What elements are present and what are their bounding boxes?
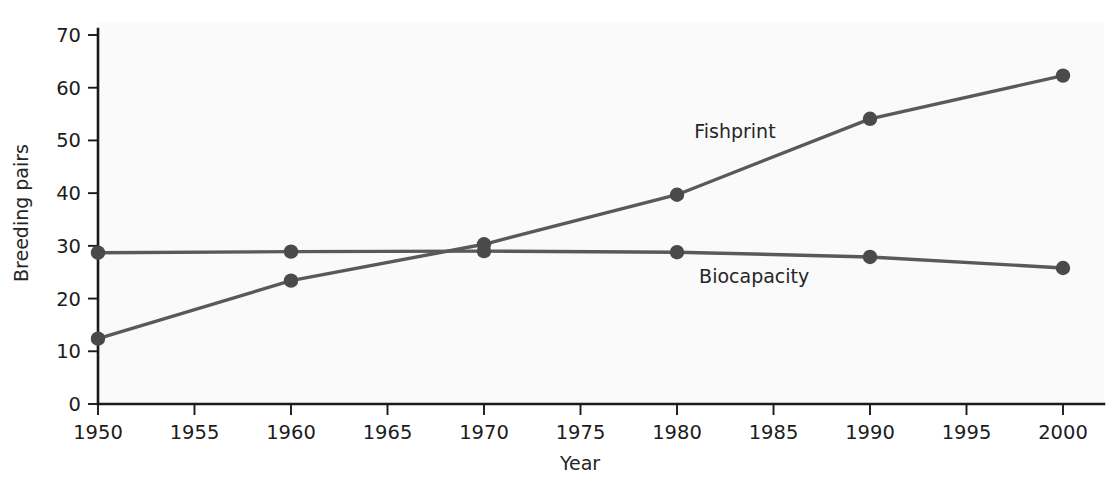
y-tick-label-30: 30 [56,235,81,258]
series-annotations: FishprintBiocapacity [694,120,809,287]
series-biocapacity [91,244,1070,275]
series-line-fishprint [98,76,1063,339]
y-tick-label-10: 10 [56,340,81,363]
x-tick-label-2000: 2000 [1038,421,1088,444]
y-tick-label-0: 0 [69,393,81,416]
data-point-biocapacity-1980 [670,245,684,259]
data-point-fishprint-1980 [670,188,684,202]
data-point-biocapacity-1950 [91,246,105,260]
x-tick-label-1980: 1980 [652,421,702,444]
data-point-fishprint-2000 [1056,68,1070,82]
x-tick-marks [98,404,1063,415]
line-chart: 010203040506070 195019551960196519701975… [0,0,1106,488]
data-point-biocapacity-1990 [863,250,877,264]
data-point-fishprint-1990 [863,112,877,126]
x-tick-label-1995: 1995 [942,421,992,444]
data-series-layer [91,68,1070,345]
y-tick-label-50: 50 [56,129,81,152]
x-tick-label-1985: 1985 [749,421,799,444]
series-line-biocapacity [98,251,1063,268]
y-tick-marks [88,35,98,404]
y-axis-title: Breeding pairs [10,144,32,282]
data-point-fishprint-1950 [91,331,105,345]
x-axis-group: 1950195519601965197019751980198519901995… [73,404,1104,444]
x-tick-label-1955: 1955 [170,421,220,444]
y-axis-group: 010203040506070 [56,24,98,416]
x-tick-label-1970: 1970 [459,421,509,444]
x-tick-label-1990: 1990 [845,421,895,444]
data-point-fishprint-1960 [284,273,298,287]
chart-container: 010203040506070 195019551960196519701975… [0,0,1106,488]
x-tick-label-1950: 1950 [73,421,123,444]
y-tick-labels: 010203040506070 [56,24,81,416]
y-tick-label-60: 60 [56,77,81,100]
x-axis-title: Year [559,452,600,474]
x-tick-label-1965: 1965 [363,421,413,444]
y-tick-label-70: 70 [56,24,81,47]
y-tick-label-40: 40 [56,182,81,205]
data-point-biocapacity-2000 [1056,261,1070,275]
series-fishprint [91,68,1070,345]
series-label-biocapacity: Biocapacity [699,265,809,287]
data-point-biocapacity-1960 [284,244,298,258]
y-tick-label-20: 20 [56,288,81,311]
series-label-fishprint: Fishprint [694,120,775,142]
data-point-biocapacity-1970 [477,244,491,258]
x-tick-label-1975: 1975 [556,421,606,444]
x-tick-label-1960: 1960 [266,421,316,444]
x-tick-labels: 1950195519601965197019751980198519901995… [73,421,1088,444]
